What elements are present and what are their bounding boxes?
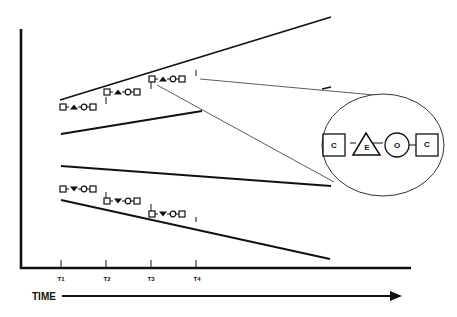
- upper-funnel: [60, 17, 331, 134]
- lower-chain-t2: [104, 198, 140, 204]
- lower-funnel-top-line: [61, 166, 331, 186]
- callout-letter-e: E: [364, 143, 370, 152]
- upper-chain-t3: [149, 76, 185, 82]
- tick-label-t3: T3: [147, 276, 155, 282]
- callout-letter-o: O: [394, 141, 400, 150]
- time-arrow: TIME: [32, 291, 402, 302]
- arrowhead-icon: [390, 291, 402, 301]
- upper-chain-t1: [60, 104, 96, 110]
- lower-funnel: [60, 166, 331, 259]
- tick-label-t2: T2: [103, 276, 111, 282]
- lower-chain-t3: [149, 211, 185, 217]
- tick-label-t1: T1: [57, 276, 65, 282]
- time-label: TIME: [32, 291, 56, 302]
- upper-funnel-bottom-mark: [322, 87, 331, 89]
- upper-chain-t2: [104, 89, 140, 95]
- lower-funnel-bottom-line: [61, 200, 330, 259]
- callout-letter-c-left: C: [331, 141, 337, 150]
- callout-letter-c-right: C: [424, 140, 430, 149]
- callout-magnifier: C E O C: [322, 94, 444, 196]
- upper-funnel-bottom-line: [61, 111, 202, 134]
- time-diagram: T1 T2 T3 T4 TIME: [0, 0, 457, 317]
- lower-chain-t1: [60, 186, 96, 192]
- tick-label-t4: T4: [193, 276, 201, 282]
